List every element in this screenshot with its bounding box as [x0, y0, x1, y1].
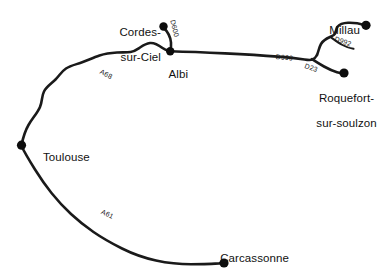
road-label-d999: D999 — [275, 53, 293, 62]
city-label-toulouse-line1: Toulouse — [43, 151, 90, 163]
city-dot-toulouse[interactable] — [17, 141, 26, 150]
city-label-millau-line1: Millau — [329, 24, 360, 36]
city-label-carcassonne-line1: Carcassonne — [220, 252, 289, 264]
city-label-cordes-sur-ciel-line2: sur-Ciel — [121, 51, 161, 63]
road-path-d999 — [170, 51, 317, 60]
city-label-albi-line1: Albi — [169, 68, 189, 80]
city-label-toulouse: Toulouse — [30, 138, 88, 176]
city-label-albi: Albi — [156, 55, 186, 93]
city-dot-roquefort-sur-soulzon[interactable] — [339, 68, 348, 77]
city-dot-millau[interactable] — [361, 21, 370, 30]
city-label-carcassonne: Carcassonne — [206, 239, 290, 277]
city-label-cordes-sur-ciel: Cordes- sur-Ciel — [101, 13, 161, 76]
city-label-roquefort-sur-soulzon-line1: Roquefort- — [319, 92, 374, 104]
city-label-cordes-sur-ciel-line1: Cordes- — [119, 26, 161, 38]
map-canvas: Cordes- sur-Ciel Albi Toulouse Carcasson… — [0, 0, 389, 280]
city-label-roquefort-sur-soulzon: Roquefort- sur-soulzon — [292, 79, 388, 142]
city-label-roquefort-sur-soulzon-line2: sur-soulzon — [316, 117, 377, 129]
